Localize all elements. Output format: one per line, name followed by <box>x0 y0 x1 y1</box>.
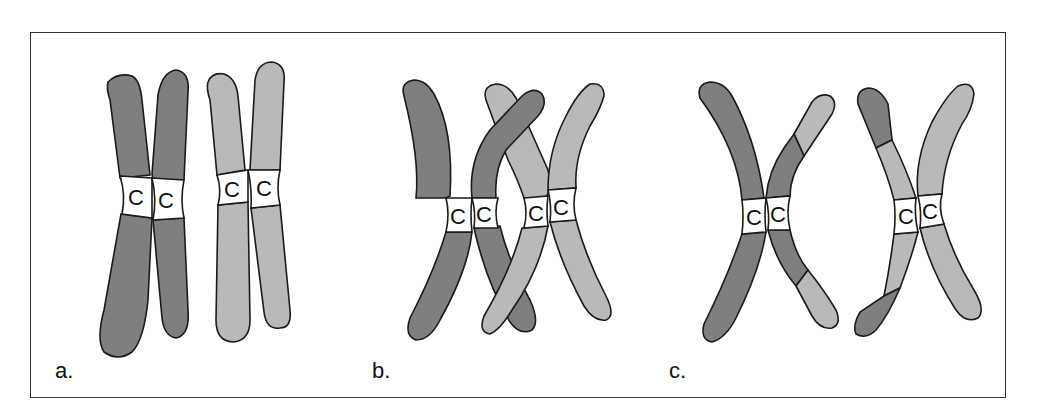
chromatid-light-2-lower <box>251 205 290 328</box>
panel-c: C C C C <box>699 82 981 342</box>
centromere-label: C <box>746 205 762 230</box>
centromere-label: C <box>256 176 272 201</box>
recombinant-upper-light <box>876 140 916 200</box>
chromatid-light-1 <box>207 74 245 175</box>
centromere-label: C <box>553 195 569 220</box>
centromere-label: C <box>158 188 174 213</box>
recombinant-tip-lower-light <box>796 270 838 328</box>
panel-b: C C C C <box>403 80 611 340</box>
panel-a: C C C C <box>100 62 290 357</box>
centromere-label: C <box>898 204 914 229</box>
chromatid-dark-1 <box>107 75 150 178</box>
centromere-label: C <box>770 202 786 227</box>
chromatid-light-2 <box>250 62 284 170</box>
chromatid-dark-1-lower <box>703 232 766 342</box>
panel-label-c: c. <box>669 358 686 384</box>
chromatid-light-2-lower <box>550 220 611 320</box>
chromatid-dark-2 <box>152 70 188 180</box>
chromatid-dark-2-lower <box>153 218 188 338</box>
centromere-label: C <box>450 204 466 229</box>
centromere-label: C <box>528 201 544 226</box>
recombinant-tip-lower-dark <box>855 288 900 336</box>
chromatid-dark-1-lower <box>408 232 472 340</box>
recombinant-upper-dark <box>766 134 804 198</box>
panel-label-a: a. <box>55 358 73 384</box>
recombinant-tip-upper-dark <box>858 88 892 148</box>
centromere-label: C <box>922 199 938 224</box>
centromere-label: C <box>224 177 240 202</box>
chromatid-light-2-lower <box>920 224 981 320</box>
panel-label-b: b. <box>372 358 390 384</box>
centromere-label: C <box>128 185 144 210</box>
chromatid-light-1-lower <box>216 202 250 342</box>
recombinant-lower-light <box>884 232 918 296</box>
chromatid-dark-1-lower <box>100 214 152 357</box>
chromatid-light-2 <box>548 84 604 190</box>
chromatid-dark-1 <box>699 82 764 200</box>
centromere-label: C <box>476 202 492 227</box>
chromosome-diagram: .dk { fill: #7f7f7f; stroke: #1a1a1a; st… <box>0 0 1037 415</box>
chromatid-light-2 <box>917 84 974 196</box>
